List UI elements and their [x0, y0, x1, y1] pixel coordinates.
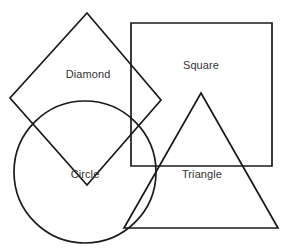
square-label: Square	[183, 60, 219, 71]
shapes-vector-layer	[0, 0, 288, 252]
shapes-diagram-canvas: Diamond Square Circle Triangle	[0, 0, 288, 252]
triangle-label: Triangle	[182, 169, 222, 180]
diamond-label: Diamond	[66, 69, 111, 80]
circle-label: Circle	[71, 169, 100, 180]
diamond-shape[interactable]	[10, 13, 161, 185]
